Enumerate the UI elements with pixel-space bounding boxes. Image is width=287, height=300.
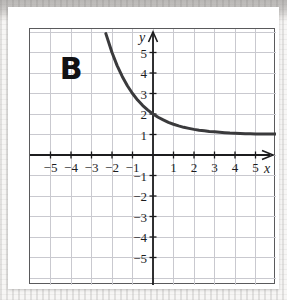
x-tick-label: 5: [252, 161, 259, 174]
y-tick-label: 3: [141, 87, 148, 100]
x-tick-label: 1: [170, 161, 177, 174]
y-tick-label: −1: [133, 169, 147, 182]
x-tick-label: −2: [105, 161, 119, 174]
x-tick-label: 3: [211, 161, 218, 174]
y-tick-label: 1: [141, 128, 148, 141]
y-tick-label: −4: [133, 231, 147, 244]
axis-labels: y x B −5−4−3−2−11234554321−1−2−3−4−5: [30, 29, 274, 283]
y-tick-label: −5: [133, 251, 147, 264]
y-axis-label: y: [139, 31, 145, 45]
x-tick-label: −5: [44, 161, 58, 174]
y-tick-label: −2: [133, 190, 147, 203]
x-tick-label: 2: [191, 161, 198, 174]
y-tick-label: −3: [133, 210, 147, 223]
coordinate-plane: y x B −5−4−3−2−11234554321−1−2−3−4−5: [29, 28, 275, 284]
x-tick-label: −4: [64, 161, 78, 174]
x-tick-label: −3: [85, 161, 99, 174]
panel-letter: B: [60, 54, 83, 84]
x-tick-label: 4: [232, 161, 239, 174]
screenshot-root: y x B −5−4−3−2−11234554321−1−2−3−4−5: [0, 0, 287, 300]
paper-surface: y x B −5−4−3−2−11234554321−1−2−3−4−5: [8, 7, 279, 289]
y-tick-label: 2: [141, 108, 148, 121]
y-tick-label: 4: [141, 67, 148, 80]
y-tick-label: 5: [141, 46, 148, 59]
x-axis-label: x: [264, 162, 270, 176]
